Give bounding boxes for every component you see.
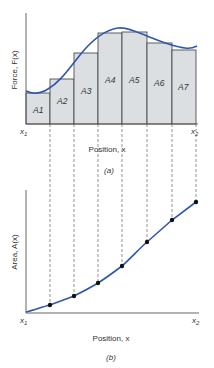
bar-label-a5: A5: [128, 75, 140, 85]
x-axis-label-b: Position, x: [93, 334, 130, 343]
x2-label-a: x2: [190, 127, 199, 137]
caption-a: (a): [104, 166, 114, 175]
marker-1: [48, 303, 52, 307]
caption-b: (b): [106, 353, 116, 362]
panel-b-area-chart: Area, A(x) x1 x2 Position, x (b): [10, 190, 200, 362]
bar-label-a7: A7: [177, 82, 189, 92]
x1-label-b: x1: [19, 316, 27, 326]
y-axis-label-area: Area, A(x): [10, 234, 19, 270]
marker-6: [170, 218, 174, 222]
bar-label-a1: A1: [32, 105, 44, 115]
bar-label-a2: A2: [56, 96, 68, 106]
bar-label-a6: A6: [153, 78, 165, 88]
marker-5: [145, 240, 149, 244]
marker-7: [194, 200, 198, 204]
figure: A1 A2 A3 A4 A5 A6 A7 Force, F(x) x1 x2 P…: [0, 0, 214, 368]
x2-label-b: x2: [191, 316, 200, 326]
marker-3: [96, 281, 100, 285]
marker-2: [72, 294, 76, 298]
x-axis-label-a: Position, x: [89, 145, 126, 154]
y-axis-label-force: Force, F(x): [10, 50, 19, 89]
bar-label-a4: A4: [104, 75, 116, 85]
x1-label-a: x1: [19, 127, 27, 137]
panel-a-force-chart: A1 A2 A3 A4 A5 A6 A7 Force, F(x) x1 x2 P…: [10, 13, 199, 175]
marker-4: [120, 264, 124, 268]
area-markers: [48, 200, 198, 307]
bar-label-a3: A3: [80, 86, 92, 96]
